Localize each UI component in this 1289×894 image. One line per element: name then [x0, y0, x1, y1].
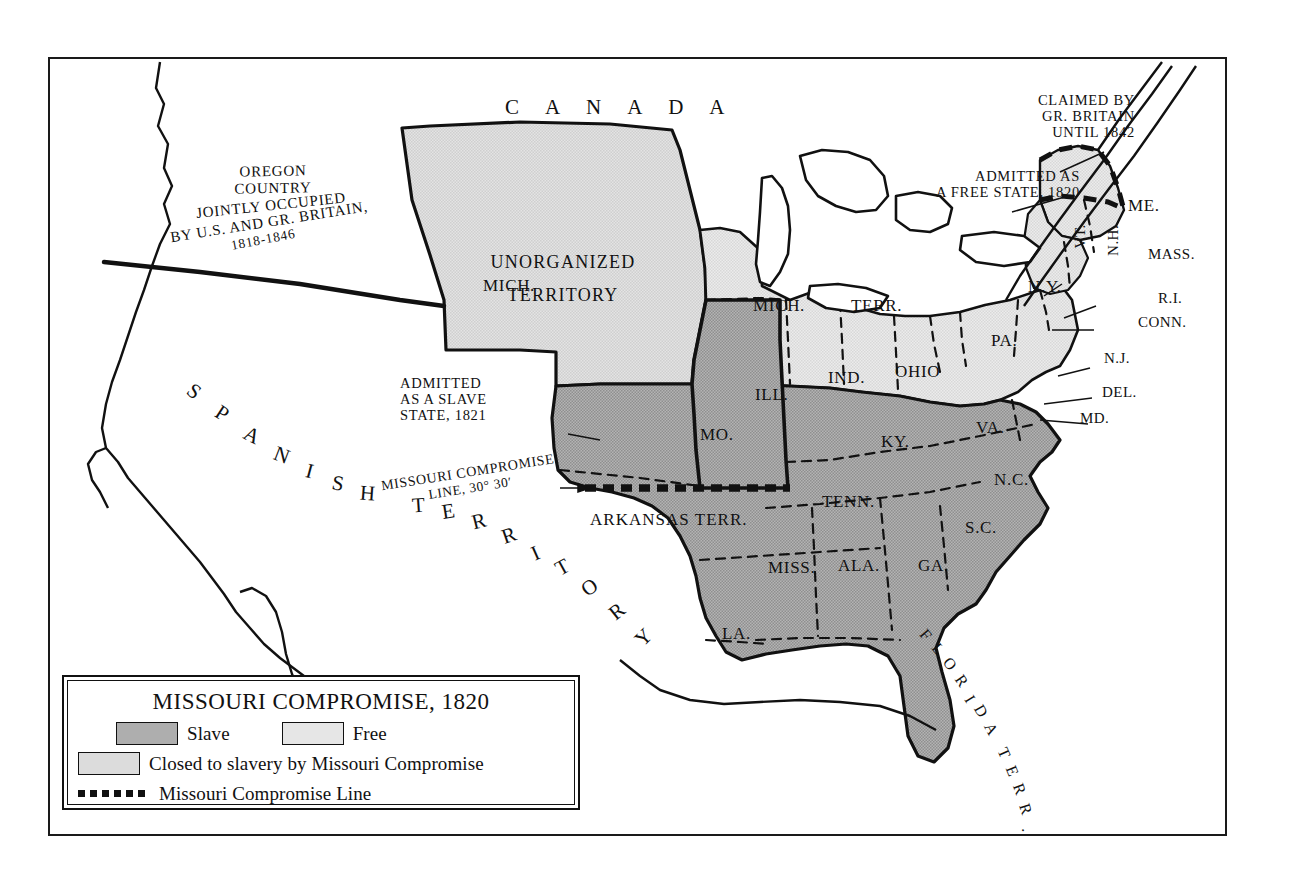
claimed-line-1: CLAIMED BY — [955, 92, 1135, 108]
legend-row-slave-free: Slave Free — [78, 722, 564, 745]
legend-row-compromise-line: Missouri Compromise Line — [78, 782, 564, 805]
claimed-line-3: UNTIL 1842 — [955, 124, 1135, 140]
unorganized-line-1: UNORGANIZED — [468, 252, 658, 272]
map-figure: C A N A D A OREGON COUNTRY JOINTLY OCCUP… — [0, 0, 1289, 894]
legend-row-closed: Closed to slavery by Missouri Compromise — [78, 752, 564, 775]
state-label-ala: ALA. — [838, 556, 880, 575]
state-label-tenn: TENN. — [822, 492, 875, 511]
state-label-conn: CONN. — [1138, 314, 1187, 331]
state-label-nc: N.C. — [994, 470, 1029, 489]
state-label-nh: N.H. — [1105, 225, 1122, 256]
state-label-ga: GA. — [918, 556, 949, 575]
legend-swatch-closed — [78, 752, 140, 775]
state-label-md: MD. — [1080, 410, 1109, 427]
legend-swatch-compromise-line — [78, 782, 150, 805]
slave-state-line-1: ADMITTED — [400, 375, 560, 391]
state-label-pa: PA. — [991, 331, 1017, 350]
state-label-mo: MO. — [700, 425, 734, 444]
region-label-michigan-terr-b: TERR. — [851, 296, 902, 315]
legend-label-closed: Closed to slavery by Missouri Compromise — [149, 753, 484, 775]
region-label-michigan-terr-a: MICH. — [483, 276, 535, 295]
slave-state-line-2: AS A SLAVE — [400, 391, 560, 407]
legend-swatch-slave — [116, 722, 178, 745]
state-label-miss: MISS. — [768, 558, 815, 577]
state-label-ky: KY. — [881, 432, 910, 451]
legend-inner-border: MISSOURI COMPROMISE, 1820 Slave Free Clo… — [67, 680, 575, 805]
free-state-line-1: ADMITTED AS — [880, 168, 1080, 184]
state-label-ohio: OHIO — [895, 362, 940, 381]
legend-label-free: Free — [353, 723, 387, 745]
annotation-admitted-slave-state: ADMITTED AS A SLAVE STATE, 1821 — [400, 375, 560, 424]
legend-title: MISSOURI COMPROMISE, 1820 — [78, 689, 564, 715]
map-legend: MISSOURI COMPROMISE, 1820 Slave Free Clo… — [62, 675, 580, 810]
state-label-me: ME. — [1128, 196, 1160, 215]
free-state-line-2: A FREE STATE, 1820 — [880, 184, 1080, 200]
region-label-arkansas-terr: ARKANSAS TERR. — [590, 510, 748, 529]
legend-label-compromise-line: Missouri Compromise Line — [159, 783, 371, 805]
state-label-ind: IND. — [828, 368, 865, 387]
annotation-admitted-free-state: ADMITTED AS A FREE STATE, 1820 — [880, 168, 1080, 200]
legend-swatch-free — [282, 722, 344, 745]
state-label-ny: N.Y. — [1028, 277, 1062, 296]
state-label-ill: ILL. — [755, 385, 788, 404]
state-label-del: DEL. — [1102, 384, 1137, 401]
slave-state-line-3: STATE, 1821 — [400, 407, 560, 423]
state-label-michigan: MICH. — [753, 296, 805, 315]
state-label-nj: N.J. — [1104, 350, 1130, 367]
region-label-canada: C A N A D A — [505, 96, 735, 120]
state-label-mass: MASS. — [1148, 246, 1195, 263]
legend-label-slave: Slave — [187, 723, 230, 745]
state-label-va: VA. — [976, 418, 1005, 437]
region-label-oregon-country: OREGON COUNTRY JOINTLY OCCUPIED BY U.S. … — [158, 163, 388, 245]
claimed-line-2: GR. BRITAIN — [955, 108, 1135, 124]
region-label-florida-terr: F L O R I D A T E R R . — [915, 612, 1045, 762]
state-label-sc: S.C. — [965, 518, 997, 537]
state-label-ri: R.I. — [1158, 290, 1182, 307]
state-label-la: LA. — [722, 624, 751, 643]
state-label-vt: VT. — [1072, 224, 1089, 248]
annotation-claimed-by-gr-britain: CLAIMED BY GR. BRITAIN UNTIL 1842 — [955, 92, 1135, 141]
